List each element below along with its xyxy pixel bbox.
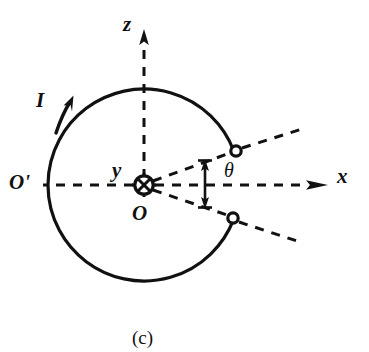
y-axis-label: y [112,160,121,181]
y-axis-into-page-icon [132,173,156,197]
origin-label: O [132,203,147,224]
upper-lead-outer-line [242,129,302,148]
x-axis-label: x [337,166,348,187]
angle-theta-label: θ [224,160,234,180]
z-axis-label: z [123,14,131,35]
figure-caption: (c) [132,327,153,349]
lower-terminal-node [228,213,238,223]
z-axis-arrowhead [139,29,149,45]
upper-lead-inner-line [153,153,230,181]
current-label: I [36,90,44,111]
lower-lead-outer-line [239,222,297,241]
lower-lead-inner-line [153,190,227,215]
physics-diagram-figure: z x y O O' I θ (c) [0,0,369,352]
origin-prime-label: O' [9,172,30,193]
diagram-canvas [0,0,369,352]
current-direction-arrow [56,96,74,134]
x-axis-arrowhead [306,180,328,190]
upper-terminal-node [231,146,241,156]
